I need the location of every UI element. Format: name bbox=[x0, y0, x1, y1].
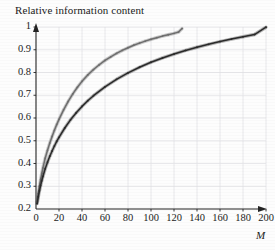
chart-figure: Relative information content M 0.20.30.4… bbox=[0, 0, 275, 250]
y-tick-label: 0.7 bbox=[5, 88, 31, 99]
y-tick-label: 0.5 bbox=[5, 134, 31, 145]
data-curves bbox=[36, 26, 267, 204]
y-tick-label: 0.3 bbox=[5, 179, 31, 190]
y-tick-label: 0.9 bbox=[5, 43, 31, 54]
y-tick-label: 0.8 bbox=[5, 66, 31, 77]
y-tick-label: 1 bbox=[5, 20, 31, 31]
y-tick-label: 0.4 bbox=[5, 157, 31, 168]
y-tick-label: 0.6 bbox=[5, 111, 31, 122]
axes bbox=[33, 23, 267, 212]
x-tick-label: 200 bbox=[251, 212, 275, 223]
